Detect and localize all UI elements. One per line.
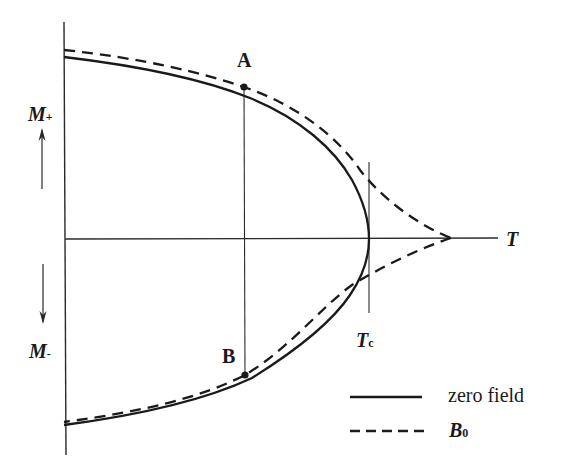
a-to-b-connector-line bbox=[244, 87, 245, 375]
m-minus-label: M- bbox=[29, 341, 51, 361]
m-minus-label-subscript: - bbox=[47, 347, 51, 361]
m-plus-label-subscript: + bbox=[46, 110, 53, 124]
point-a-marker bbox=[240, 83, 247, 90]
zero-field-curve-lower bbox=[64, 239, 369, 425]
m-plus-up-arrow-icon bbox=[39, 128, 46, 189]
b0-field-curve-lower bbox=[64, 238, 451, 422]
point-a-label: A bbox=[237, 50, 251, 70]
legend-b0-label-subscript: 0 bbox=[462, 426, 468, 440]
m-plus-label-main: M bbox=[28, 103, 46, 125]
m-minus-down-arrow-icon bbox=[40, 264, 47, 324]
tc-label-subscript: c bbox=[368, 336, 373, 350]
m-minus-label-main: M bbox=[29, 340, 47, 362]
point-b-marker bbox=[241, 371, 248, 378]
m-plus-label: M+ bbox=[28, 104, 53, 124]
magnetization-phase-diagram: T Tc A B M+ M- zero field B0 bbox=[0, 0, 561, 468]
temperature-axis-label: T bbox=[506, 229, 518, 249]
zero-field-curve-upper bbox=[64, 57, 369, 239]
temperature-axis bbox=[65, 238, 498, 239]
legend-b0-label: B0 bbox=[449, 420, 468, 440]
temperature-axis-label-text: T bbox=[506, 228, 518, 250]
b0-field-curve-upper bbox=[64, 50, 451, 238]
tc-label-main: T bbox=[356, 329, 368, 351]
legend-zero-field-label: zero field bbox=[448, 385, 524, 405]
critical-temperature-label: Tc bbox=[356, 330, 374, 350]
legend-b0-label-main: B bbox=[449, 419, 462, 441]
point-b-label: B bbox=[222, 346, 235, 366]
